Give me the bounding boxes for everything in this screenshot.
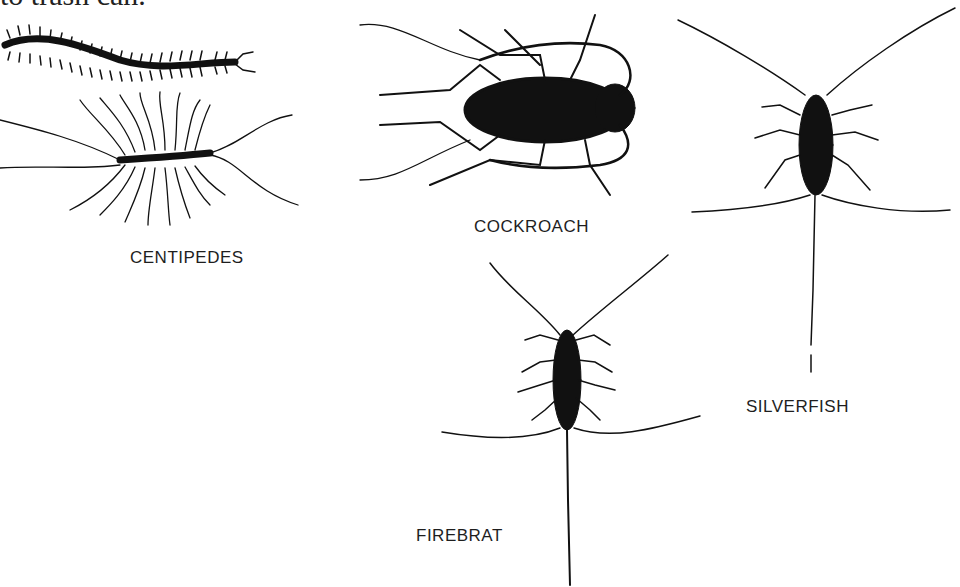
house-centipede-illustration — [0, 92, 298, 225]
silverfish-label: SILVERFISH — [746, 397, 849, 417]
centipedes-label: CENTIPEDES — [130, 248, 244, 268]
firebrat-label: FIREBRAT — [416, 526, 503, 546]
insect-illustrations — [0, 0, 960, 587]
cockroach-label: COCKROACH — [474, 217, 589, 237]
centipede-long-illustration — [5, 25, 255, 81]
cockroach-illustration — [360, 15, 635, 195]
silverfish-illustration — [678, 8, 955, 372]
